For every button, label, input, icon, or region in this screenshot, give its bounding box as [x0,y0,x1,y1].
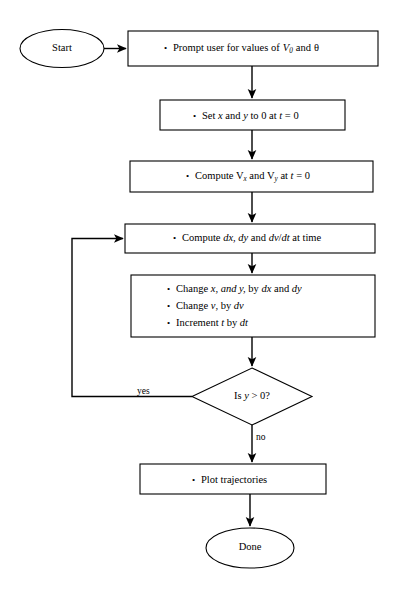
node-decision-label: Is y > 0? [212,390,292,401]
node-update-shape[interactable] [131,275,375,337]
edge-label-yes: yes [137,386,150,396]
flowchart-canvas: Start •Prompt user for values ofV0andθ •… [0,0,399,590]
node-plot-shape[interactable] [140,464,326,494]
node-compute-v-shape[interactable] [130,161,373,192]
node-start-label: Start [20,42,104,53]
node-compute-d-shape[interactable] [125,224,375,253]
node-prompt-shape[interactable] [128,31,378,66]
node-init-xy-shape[interactable] [160,100,345,130]
node-done-label: Done [206,541,294,552]
flowchart-shapes-layer [0,0,399,590]
edge-label-no: no [256,432,266,442]
